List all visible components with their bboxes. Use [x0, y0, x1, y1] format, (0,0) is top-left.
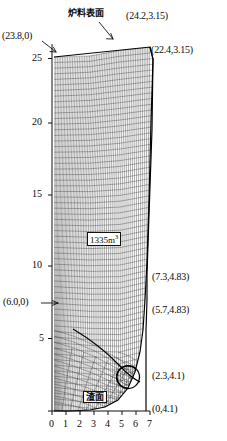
right-wall-profile: [146, 47, 153, 411]
slag-surface-label: 渣面: [83, 391, 107, 403]
annotation-0-4-1: (0,4.1): [152, 404, 177, 414]
annotation-23-8-0: (23.8,0): [2, 31, 32, 41]
x-tick-5: 5: [119, 419, 124, 429]
y-tick-15: 15: [32, 189, 42, 199]
y-tick-5: 5: [39, 333, 44, 343]
x-tick-3: 3: [91, 419, 96, 429]
annotation-22-4-3-15: (22.4,3.15): [151, 45, 193, 55]
x-tick-1: 1: [63, 419, 68, 429]
annotation-7-3-4-83: (7.3,4.83): [152, 272, 189, 282]
blast-furnace-mesh-figure: 炉料表面 (23.8,0) (24.2,3.15) (22.4,3.15) (7…: [0, 0, 227, 441]
annotation-6-0-0: (6.0,0): [3, 297, 28, 307]
x-tick-0: 0: [49, 419, 54, 429]
x-tick-2: 2: [77, 419, 82, 429]
y-tick-10: 10: [32, 260, 42, 270]
annotation-5-7-4-83: (5.7,4.83): [152, 305, 189, 315]
y-tick-25: 25: [32, 53, 42, 63]
annotation-24-2-3-15: (24.2,3.15): [126, 11, 168, 21]
y-tick-20: 20: [32, 117, 42, 127]
annotation-2-3-4-1: (2.3,4.1): [152, 371, 184, 381]
volume-value: 1335m: [90, 235, 115, 245]
x-tick-7: 7: [147, 419, 152, 429]
furnace-outline: [54, 47, 153, 411]
x-tick-4: 4: [105, 419, 110, 429]
figure-canvas: [0, 0, 227, 441]
charge-surface-label: 炉料表面: [68, 9, 104, 18]
volume-exponent: 3: [115, 233, 118, 240]
x-tick-6: 6: [133, 419, 138, 429]
volume-label: 1335m3: [87, 232, 121, 246]
